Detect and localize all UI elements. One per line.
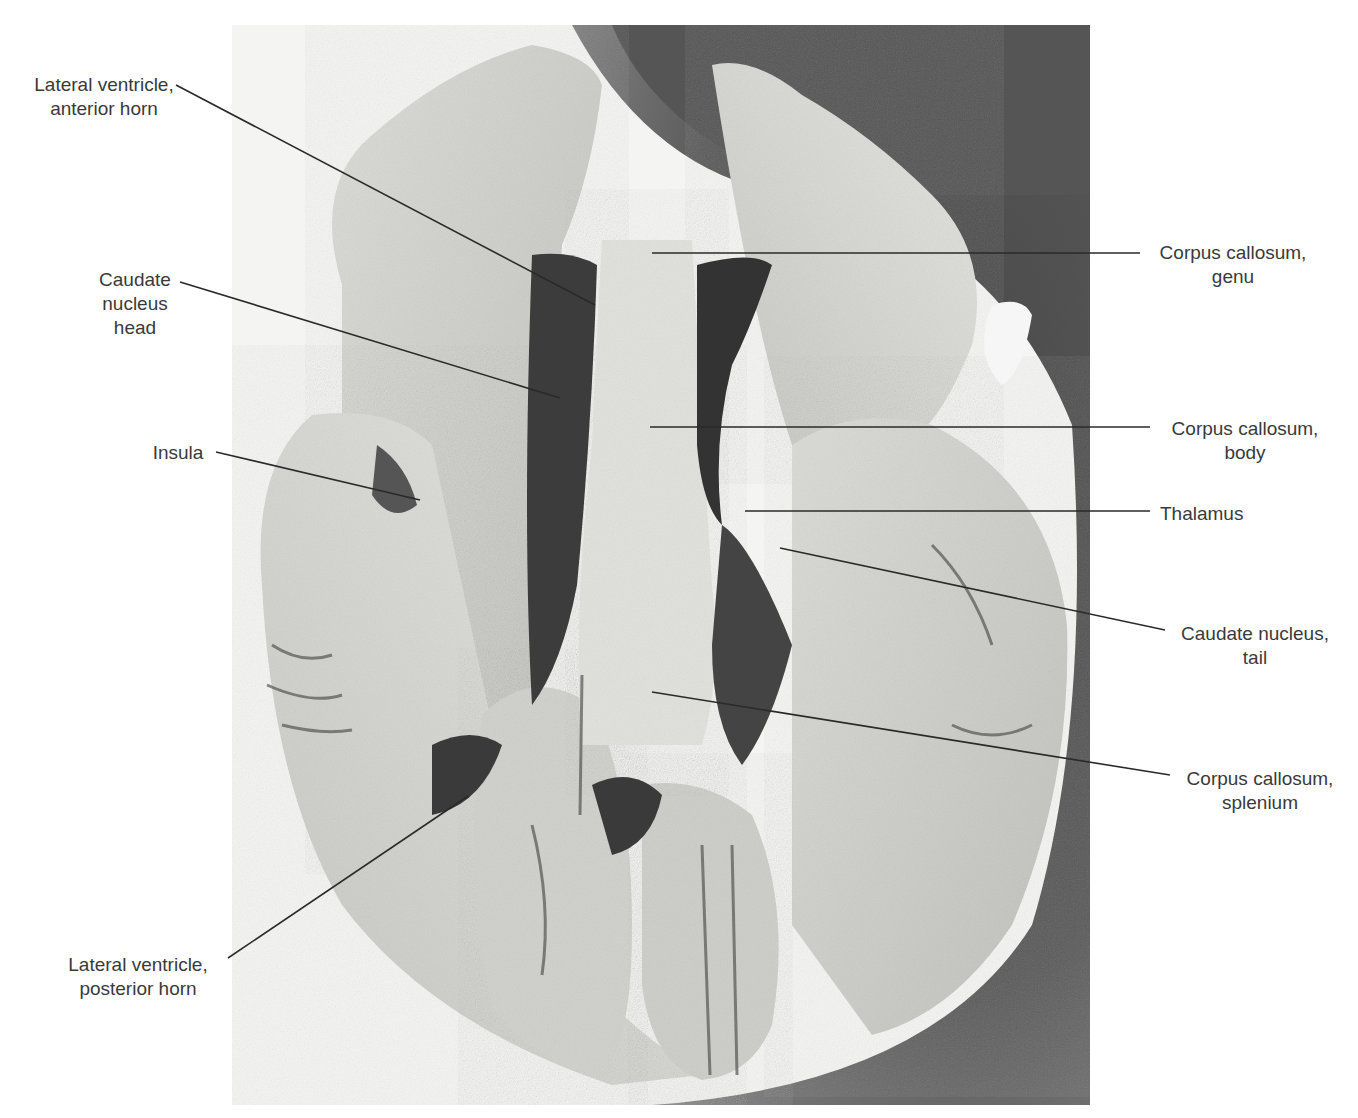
- label-line: Caudate nucleus,: [1165, 622, 1345, 646]
- label-lateral-ventricle-anterior-horn: Lateral ventricle, anterior horn: [14, 73, 194, 121]
- label-line: Corpus callosum,: [1143, 241, 1323, 265]
- label-thalamus: Thalamus: [1160, 502, 1260, 526]
- label-line: Insula: [140, 441, 216, 465]
- label-caudate-nucleus-tail: Caudate nucleus, tail: [1165, 622, 1345, 670]
- label-corpus-callosum-body: Corpus callosum, body: [1155, 417, 1335, 465]
- label-line: anterior horn: [14, 97, 194, 121]
- label-line: tail: [1165, 646, 1345, 670]
- label-line: Lateral ventricle,: [14, 73, 194, 97]
- label-line: body: [1155, 441, 1335, 465]
- label-line: Thalamus: [1160, 502, 1260, 526]
- label-line: posterior horn: [48, 977, 228, 1001]
- leader-lines: [0, 0, 1358, 1118]
- label-line: genu: [1143, 265, 1323, 289]
- label-line: Corpus callosum,: [1170, 767, 1350, 791]
- leader-line-caudate-head: [180, 282, 560, 398]
- leader-line-cc-splenium: [652, 692, 1170, 775]
- label-line: head: [90, 316, 180, 340]
- leader-line-lv-anterior: [176, 85, 595, 305]
- label-insula: Insula: [140, 441, 216, 465]
- label-line: nucleus: [90, 292, 180, 316]
- label-corpus-callosum-genu: Corpus callosum, genu: [1143, 241, 1323, 289]
- label-corpus-callosum-splenium: Corpus callosum, splenium: [1170, 767, 1350, 815]
- leader-line-insula: [216, 452, 420, 500]
- leader-line-lv-posterior: [228, 796, 468, 958]
- label-line: Lateral ventricle,: [48, 953, 228, 977]
- label-line: Caudate: [90, 268, 180, 292]
- label-line: splenium: [1170, 791, 1350, 815]
- anatomy-figure: Lateral ventricle, anterior horn Caudate…: [0, 0, 1358, 1118]
- label-lateral-ventricle-posterior-horn: Lateral ventricle, posterior horn: [48, 953, 228, 1001]
- leader-line-caudate-tail: [780, 548, 1165, 630]
- label-caudate-nucleus-head: Caudate nucleus head: [90, 268, 180, 340]
- label-line: Corpus callosum,: [1155, 417, 1335, 441]
